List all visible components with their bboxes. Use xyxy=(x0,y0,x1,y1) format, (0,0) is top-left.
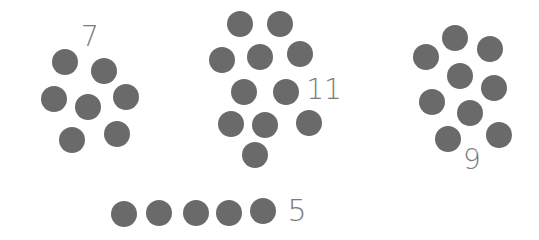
dot xyxy=(287,41,313,67)
group-label: 7 xyxy=(81,23,99,51)
dot xyxy=(216,200,242,226)
dot xyxy=(457,100,483,126)
dot xyxy=(52,49,78,75)
dot xyxy=(111,201,137,227)
dot-count-illustration: 7 11 9 5 xyxy=(0,0,539,240)
group-label: 5 xyxy=(287,196,306,226)
group-label: 11 xyxy=(306,76,342,104)
dot xyxy=(267,11,293,37)
dot xyxy=(442,25,468,51)
dot xyxy=(481,75,507,101)
dot xyxy=(252,112,278,138)
dot xyxy=(273,79,299,105)
group-label: 9 xyxy=(463,146,481,174)
dot xyxy=(242,142,268,168)
dot xyxy=(91,58,117,84)
dot xyxy=(486,122,512,148)
dot xyxy=(59,127,85,153)
dot xyxy=(296,110,322,136)
dot xyxy=(435,126,461,152)
dot xyxy=(41,86,67,112)
dot xyxy=(227,11,253,37)
dot xyxy=(75,94,101,120)
dot xyxy=(231,79,257,105)
dot xyxy=(218,111,244,137)
dot xyxy=(447,63,473,89)
dot xyxy=(477,36,503,62)
dot xyxy=(113,84,139,110)
dot xyxy=(104,121,130,147)
dot xyxy=(209,47,235,73)
dot xyxy=(247,44,273,70)
dot xyxy=(146,200,172,226)
dot xyxy=(419,89,445,115)
dot xyxy=(413,44,439,70)
dot xyxy=(250,198,276,224)
dot xyxy=(183,200,209,226)
